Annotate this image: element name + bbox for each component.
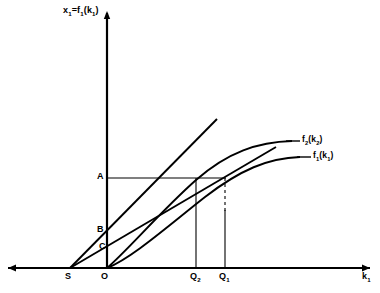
y-axis-label: x1=f1(k1) [63, 6, 99, 17]
point-label-q2: Q2 [190, 272, 201, 283]
curve-label-f1: f1(k1) [313, 151, 333, 162]
curve-label-f2: f2(k2) [302, 135, 322, 146]
y-axis-label-paren-close: ) [96, 5, 99, 15]
y-axis-label-paren-open: (k [84, 5, 92, 15]
guide-lines-group [107, 178, 226, 268]
curve-f2 [107, 141, 292, 268]
y-axis-label-eq: =f [72, 5, 81, 15]
point-label-o: O [101, 272, 108, 281]
point-label-q1: Q1 [219, 272, 230, 283]
curve-label-f1-close: ) [330, 150, 333, 160]
point-label-b: B [97, 225, 104, 234]
curve-label-f2-close: ) [319, 134, 322, 144]
production-curves-group [107, 141, 300, 268]
figure-canvas [0, 0, 380, 293]
point-label-q2-sub: 2 [197, 276, 200, 283]
point-label-a: A [97, 172, 104, 181]
production-function-figure: x1=f1(k1) k1 S O A B C Q2 Q1 f2(k2) f1(k… [0, 0, 380, 293]
point-label-c: C [99, 242, 106, 251]
x-axis-arrow-left [8, 265, 16, 272]
point-label-s: S [65, 272, 71, 281]
x-axis-group [8, 265, 370, 272]
x-axis-label: k1 [362, 272, 371, 283]
y-axis-arrow [104, 11, 110, 19]
point-label-q1-sub: 1 [226, 276, 229, 283]
x-axis-label-sub: 1 [367, 276, 370, 283]
